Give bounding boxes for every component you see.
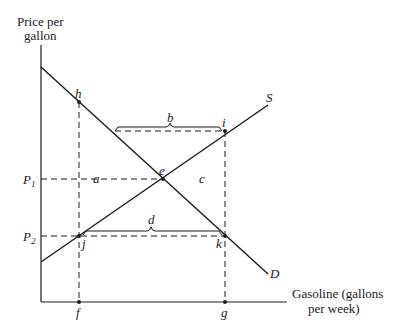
point-f-dot: [77, 300, 81, 304]
supply-demand-diagram: Price per gallon Gasoline (gallons per w…: [0, 0, 397, 336]
p2-label: P2: [22, 229, 36, 246]
x-axis-title-line1: Gasoline (gallons: [292, 286, 383, 301]
y-axis-title-line2: gallon: [24, 28, 57, 43]
d-bracket: [83, 227, 222, 235]
supply-label: S: [266, 90, 273, 105]
point-k-dot: [223, 234, 227, 238]
point-h-label: h: [75, 86, 82, 101]
y-axis-title-line1: Price per: [17, 14, 64, 29]
point-j-label: j: [80, 236, 86, 251]
region-d-label: d: [148, 212, 155, 227]
point-j-dot: [77, 234, 81, 238]
point-e-label: e: [159, 163, 165, 178]
point-i-label: i: [222, 115, 226, 130]
region-a-label: a: [93, 171, 100, 186]
supply-curve: [41, 105, 268, 262]
region-b-label: b: [167, 110, 174, 125]
point-g-dot: [223, 300, 227, 304]
region-c-label: c: [199, 171, 205, 186]
x-axis-title-line2: per week): [308, 301, 360, 316]
demand-label: D: [269, 266, 280, 281]
point-f-label: f: [76, 305, 82, 320]
point-k-label: k: [216, 236, 222, 251]
p1-label: P1: [22, 172, 35, 189]
point-g-label: g: [221, 305, 228, 320]
